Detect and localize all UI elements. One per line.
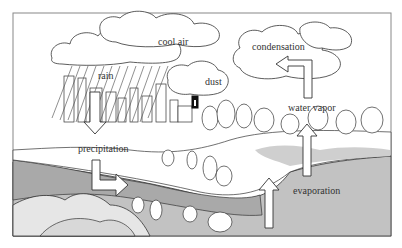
- label-condensation: condensation: [252, 42, 305, 52]
- diagram-canvas: [0, 0, 402, 248]
- label-water-vapor: water vapor: [288, 103, 335, 113]
- label-rain: rain: [98, 71, 114, 81]
- water-cycle-diagram: cool air rain dust condensation water va…: [0, 0, 402, 248]
- label-dust: dust: [205, 77, 222, 87]
- label-precipitation: precipitation: [78, 144, 129, 154]
- label-cool-air: cool air: [158, 37, 188, 47]
- factory-window: [194, 100, 196, 106]
- label-evaporation: evaporation: [293, 186, 340, 196]
